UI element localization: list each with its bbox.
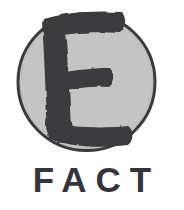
wordmark-text: FACT — [24, 163, 160, 197]
e-circle-emblem — [0, 0, 184, 158]
logo-container: FACT — [0, 0, 184, 210]
wordmark: FACT — [0, 163, 184, 203]
